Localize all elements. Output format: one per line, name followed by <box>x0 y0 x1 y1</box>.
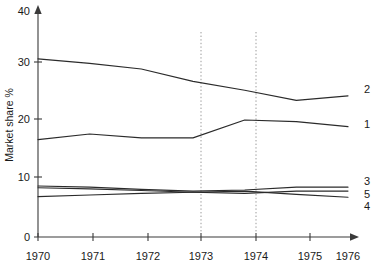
x-tick-label-1975: 1975 <box>298 250 322 262</box>
x-tick-label-1974: 1974 <box>244 250 268 262</box>
data-series-2 <box>38 59 348 100</box>
y-tick-label-0: 0 <box>24 231 30 243</box>
series-label-2: 2 <box>364 83 370 95</box>
x-tick-label-1971: 1971 <box>81 250 105 262</box>
y-axis-title: Market share % <box>3 88 15 162</box>
x-axis-arrow-icon <box>350 233 359 240</box>
line-chart: Market share % 40 30 20 10 0 1970 1971 1… <box>0 0 376 268</box>
series-label-5: 5 <box>364 188 370 200</box>
y-tick-label-20: 20 <box>18 113 30 125</box>
series-layer <box>38 59 348 197</box>
y-tick-label-30: 30 <box>18 56 30 68</box>
series-label-3: 3 <box>364 175 370 187</box>
x-tick-label-1973: 1973 <box>189 250 213 262</box>
series-label-1: 1 <box>364 118 370 130</box>
data-series-1 <box>38 120 348 140</box>
series-label-4: 4 <box>364 200 370 212</box>
y-tick-label-40: 40 <box>18 5 30 17</box>
y-tick-label-10: 10 <box>18 171 30 183</box>
x-tick-label-1976: 1976 <box>336 250 360 262</box>
chart-canvas: Market share % 40 30 20 10 0 1970 1971 1… <box>0 0 376 268</box>
y-axis-arrow-icon <box>34 5 41 14</box>
x-tick-label-1972: 1972 <box>136 250 160 262</box>
data-series-4 <box>38 191 348 197</box>
x-tick-label-1970: 1970 <box>26 250 50 262</box>
